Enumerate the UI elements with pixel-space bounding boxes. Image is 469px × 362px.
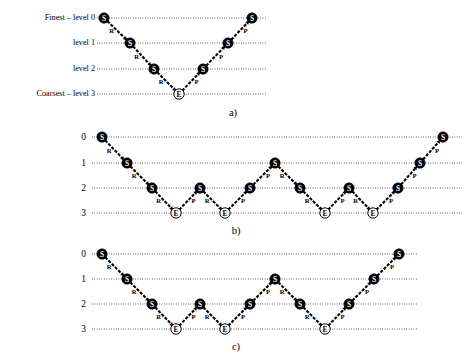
multigrid-cycle-figure: Finest – level 0level 1level 2Coarsest –… [0, 0, 469, 362]
node-label-b-2: S [150, 184, 154, 193]
node-label-b-13: S [418, 159, 422, 168]
node-label-c-0: S [100, 250, 104, 259]
node-label-c-3: E [174, 325, 179, 334]
node-label-c-7: S [273, 275, 277, 284]
edge-label-c-0: R [107, 263, 112, 270]
edge-label-c-11: P [390, 263, 394, 270]
edge-label-b-10: R [353, 197, 358, 204]
panel-caption-a: a) [229, 107, 238, 119]
level-label-b-3: 3 [81, 208, 86, 218]
edge-label-b-12: P [412, 172, 416, 179]
node-label-a-3: E [177, 90, 182, 99]
node-label-b-11: E [371, 209, 376, 218]
node-label-a-5: S [226, 39, 230, 48]
node-label-c-11: S [372, 275, 376, 284]
level-label-b-1: 1 [81, 158, 86, 168]
node-label-c-5: E [223, 325, 228, 334]
level-label-b-2: 2 [81, 183, 86, 193]
edge-label-a-4: P [219, 53, 223, 60]
edge-label-a-3: P [194, 78, 198, 85]
node-label-b-5: E [223, 209, 228, 218]
level-label-b-0: 0 [81, 132, 86, 142]
edge-label-c-3: P [191, 313, 195, 320]
level-label-c-1: 1 [81, 274, 86, 284]
cycle-diagram-canvas: Finest – level 0level 1level 2Coarsest –… [0, 0, 469, 362]
node-label-b-6: S [248, 184, 252, 193]
edge-label-c-7: R [280, 288, 285, 295]
edge-label-b-4: R [205, 197, 210, 204]
edge-label-c-6: P [266, 288, 270, 295]
panel-caption-c: c) [232, 341, 241, 353]
edge-label-c-9: P [340, 313, 344, 320]
node-label-b-3: E [174, 209, 179, 218]
node-label-b-14: S [441, 133, 445, 142]
edge-label-c-2: R [156, 313, 161, 320]
level-label-a-1: level 1 [73, 38, 95, 47]
node-label-c-9: E [323, 325, 328, 334]
node-label-c-2: S [150, 300, 154, 309]
edge-label-a-0: R [109, 27, 114, 34]
node-label-b-9: E [323, 209, 328, 218]
node-label-a-0: S [102, 14, 106, 23]
node-label-b-1: S [125, 159, 129, 168]
edge-label-c-8: R [305, 313, 310, 320]
node-label-c-8: S [298, 300, 302, 309]
node-label-a-1: S [128, 39, 132, 48]
node-label-b-7: S [273, 159, 277, 168]
edge-label-b-11: P [389, 197, 393, 204]
node-label-c-1: S [125, 275, 129, 284]
edge-label-a-2: R [159, 78, 164, 85]
panel-b: 0123RRRPRPPRRPRPPPSSSESESSSESESSSb) [81, 132, 462, 237]
level-label-a-2: level 2 [73, 64, 95, 73]
level-label-a-3: Coarsest – level 3 [37, 89, 95, 98]
level-label-c-3: 3 [81, 324, 86, 334]
panel-c: 0123RRRPRPPRRPPPSSSESESSSESSSc) [81, 249, 418, 353]
node-label-b-10: S [347, 184, 351, 193]
edge-label-a-1: R [134, 53, 139, 60]
node-label-a-2: S [152, 65, 156, 74]
panel-caption-b: b) [232, 225, 241, 237]
node-label-c-10: S [347, 300, 351, 309]
edge-label-b-6: P [266, 172, 270, 179]
edge-label-b-0: R [107, 147, 112, 154]
edge-label-b-13: P [435, 147, 439, 154]
edge-label-c-1: R [132, 288, 137, 295]
node-label-b-8: S [298, 184, 302, 193]
panel-a: Finest – level 0level 1level 2Coarsest –… [37, 13, 267, 119]
edge-label-b-3: P [191, 197, 195, 204]
node-label-a-4: S [201, 65, 205, 74]
edge-label-b-8: R [305, 197, 310, 204]
node-label-c-12: S [397, 250, 401, 259]
level-label-c-0: 0 [81, 249, 86, 259]
edge-label-b-2: R [156, 197, 161, 204]
node-label-c-6: S [248, 300, 252, 309]
node-label-b-4: S [198, 184, 202, 193]
edge-label-c-5: P [241, 313, 245, 320]
node-label-b-12: S [396, 184, 400, 193]
edge-label-b-1: R [132, 172, 137, 179]
edge-label-a-5: P [243, 27, 247, 34]
level-label-c-2: 2 [81, 299, 86, 309]
edge-label-b-9: P [340, 197, 344, 204]
edge-label-b-5: P [241, 197, 245, 204]
edge-label-c-10: P [365, 288, 369, 295]
node-label-c-4: S [198, 300, 202, 309]
node-label-a-6: S [250, 14, 254, 23]
level-label-a-0: Finest – level 0 [45, 13, 95, 22]
edge-label-b-7: R [280, 172, 285, 179]
edge-label-c-4: R [205, 313, 210, 320]
node-label-b-0: S [100, 133, 104, 142]
